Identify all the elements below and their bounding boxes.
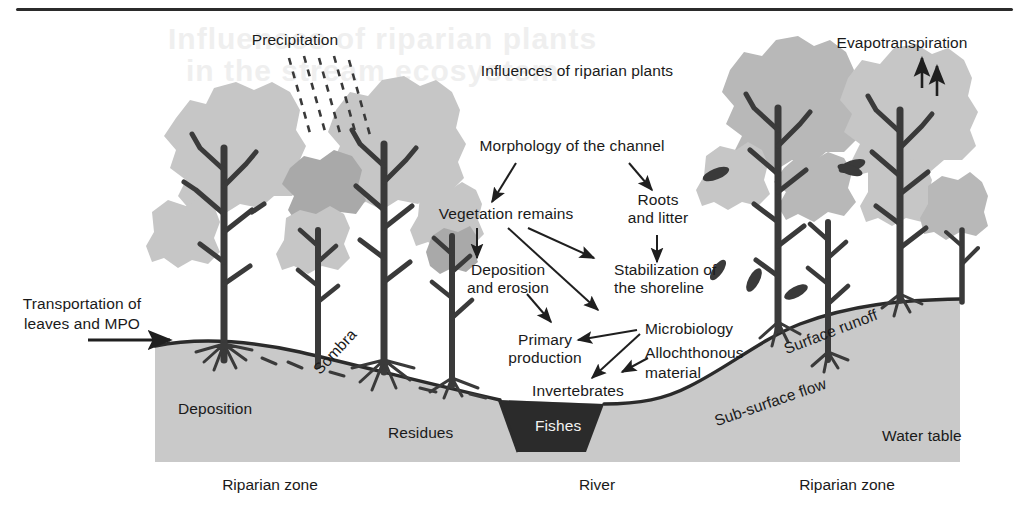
label-morphology-of-the-channel: Morphology of the channel xyxy=(479,137,664,155)
label-evapotranspiration: Evapotranspiration xyxy=(836,34,967,52)
label-precipitation: Precipitation xyxy=(252,31,339,49)
label-water-table: Water table xyxy=(882,427,962,445)
leaf-icon xyxy=(743,266,765,294)
label-fishes: Fishes xyxy=(535,417,581,435)
canopy-left-1b xyxy=(146,198,220,268)
label-allochthonous-line1: Allochthonous xyxy=(645,344,744,362)
label-stabilization-line1: Stabilization of xyxy=(614,261,716,279)
label-vegetation-remains: Vegetation remains xyxy=(439,205,574,223)
arrow-morphology-to-vegetation xyxy=(492,163,516,202)
canopy-left-1 xyxy=(164,82,306,214)
label-invertebrates: Invertebrates xyxy=(532,382,624,400)
zone-label-riparian-right: Riparian zone xyxy=(799,476,895,494)
label-deposition-and-erosion-line2: and erosion xyxy=(467,279,549,297)
arrow-microbiology-to-invertebrates xyxy=(592,334,640,378)
zone-label-river: River xyxy=(579,476,615,494)
label-stabilization-line2: the shoreline xyxy=(614,279,704,297)
label-roots-and-litter-line2: and litter xyxy=(628,209,688,227)
arrow-morphology-to-roots xyxy=(629,163,652,190)
riparian-diagram-figure: Influences of riparian plants in the str… xyxy=(0,0,1025,516)
label-microbiology: Microbiology xyxy=(645,320,733,338)
canopy-right-2 xyxy=(840,44,978,178)
label-transportation-line1: Transportation of xyxy=(23,295,141,313)
arrow-microbiology-to-primary xyxy=(578,330,637,340)
label-deposition: Deposition xyxy=(178,400,252,418)
label-roots-and-litter-line1: Roots xyxy=(638,191,679,209)
label-transportation-line2: leaves and MPO xyxy=(24,315,140,333)
zone-label-riparian-left: Riparian zone xyxy=(222,476,318,494)
label-primary-production-line2: production xyxy=(508,349,581,367)
leaf-icon xyxy=(782,281,810,303)
label-residues: Residues xyxy=(388,424,453,442)
right-tree-canopies xyxy=(696,36,988,240)
label-influences-title: Influences of riparian plants xyxy=(481,62,673,80)
arrow-vegetation-to-stabilization xyxy=(528,228,594,258)
label-allochthonous-line2: material xyxy=(645,364,701,382)
arrow-deposition-to-primary xyxy=(527,294,551,322)
label-primary-production-line1: Primary xyxy=(518,331,572,349)
rain-line xyxy=(304,56,326,135)
label-deposition-and-erosion-line1: Deposition xyxy=(471,261,545,279)
